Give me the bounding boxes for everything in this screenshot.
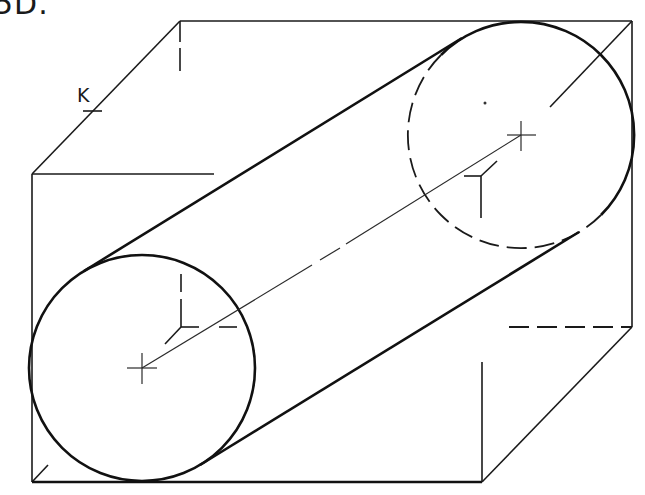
cylinder-bottom-tangent bbox=[200, 232, 579, 465]
receding-edge-bottom-right bbox=[482, 327, 632, 482]
box-edges bbox=[32, 21, 632, 482]
receding-edge-top-left bbox=[32, 21, 180, 174]
cylinder-top-tangent bbox=[84, 38, 462, 271]
cylinder-in-box-drawing bbox=[0, 0, 645, 495]
axis-dash bbox=[320, 248, 340, 260]
front-axes-diag bbox=[165, 327, 181, 344]
receding-edge-bottom-left-stub bbox=[32, 465, 48, 482]
back-axes-diag-arm bbox=[481, 161, 497, 176]
axis-segment-2 bbox=[346, 135, 521, 244]
front-axes-mark bbox=[165, 274, 237, 344]
axis-segment-1 bbox=[142, 265, 312, 368]
cylinder bbox=[29, 22, 634, 481]
back-axes-mark bbox=[464, 161, 497, 218]
receding-edge-top-right-stub bbox=[550, 21, 632, 107]
cylinder-axis bbox=[127, 121, 536, 384]
stray-dot bbox=[484, 102, 487, 105]
cylinder-back-end-visible-arc bbox=[441, 22, 634, 215]
